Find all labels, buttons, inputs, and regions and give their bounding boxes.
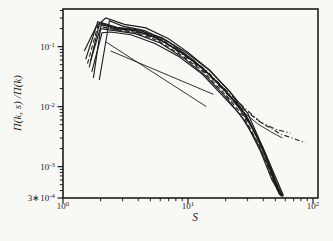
collapse-curve-5 xyxy=(84,18,282,196)
x-tick-label: 101 xyxy=(182,202,194,211)
plot-area xyxy=(0,0,333,241)
tail-curve-dashdot-long xyxy=(101,25,306,143)
exponent: -1 xyxy=(49,40,55,47)
x-axis-label: S xyxy=(192,211,198,223)
exponent: 0 xyxy=(66,200,69,207)
guide-line-shallow xyxy=(111,51,214,95)
exponent: -3 xyxy=(49,160,55,167)
collapse-curve-8 xyxy=(91,23,284,196)
y-tick-label: 10-2 xyxy=(40,102,55,111)
collapse-curve-4 xyxy=(99,21,283,197)
exponent: 1 xyxy=(191,200,194,207)
guide-line-steep xyxy=(106,42,207,107)
log-log-collapse-figure: Π(k, s) /Π(k) S 10-110-210-33∗10-4100101… xyxy=(0,0,333,241)
y-tick-label: 10-3 xyxy=(40,162,55,171)
exponent: -2 xyxy=(49,100,55,107)
y-tick-label: 10-1 xyxy=(40,42,55,51)
exponent: 2 xyxy=(316,200,319,207)
x-tick-label: 100 xyxy=(57,202,69,211)
y-tick-label: 3∗10-4 xyxy=(28,194,55,203)
tail-curve-dashdot-short xyxy=(103,27,290,133)
exponent: -4 xyxy=(49,192,55,199)
x-tick-label: 102 xyxy=(307,202,319,211)
y-axis-label: Π(k, s) /Π(k) xyxy=(12,75,23,131)
